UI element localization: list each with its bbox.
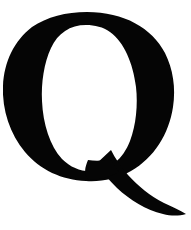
glyph-image-canvas: Uppercase letter Q	[0, 0, 191, 230]
letter-q-glyph	[0, 0, 191, 230]
